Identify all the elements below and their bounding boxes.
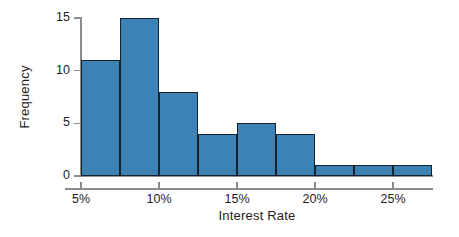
y-axis-title-label: Frequency [17, 65, 32, 128]
histogram-bar [393, 165, 432, 176]
histogram-bar [81, 60, 120, 176]
histogram-bar [354, 165, 393, 176]
histogram-bar [276, 134, 315, 176]
x-axis-tick-label: 5% [51, 192, 111, 206]
x-axis-tick-label: 15% [207, 192, 267, 206]
x-axis-title: Interest Rate [81, 208, 433, 223]
histogram-bar [237, 123, 276, 176]
plot-area [81, 18, 432, 176]
x-axis-tick-label: 20% [285, 192, 345, 206]
histogram-bar [315, 165, 354, 176]
y-axis-tick-label: 15 [40, 10, 70, 24]
x-axis-tick [236, 182, 238, 189]
histogram-bar [159, 92, 198, 176]
y-axis-tick [74, 175, 80, 177]
y-axis-tick [74, 70, 80, 72]
x-axis-tick-label: 10% [129, 192, 189, 206]
x-axis-tick-rule [65, 188, 433, 190]
histogram-bar [198, 134, 237, 176]
y-axis-tick [74, 17, 80, 19]
x-axis-tick [392, 182, 394, 189]
histogram-bar [120, 18, 159, 176]
y-axis-tick-label: 0 [40, 168, 70, 182]
y-axis-tick-label: 5 [40, 115, 70, 129]
x-axis-tick-label: 25% [363, 192, 423, 206]
x-axis-tick [80, 182, 82, 189]
y-axis-tick [74, 123, 80, 125]
y-axis-tick-label: 10 [40, 63, 70, 77]
x-axis-tick [158, 182, 160, 189]
histogram-figure: Frequency 051015 5%10%15%20%25% Interest… [0, 0, 459, 237]
x-axis-tick [314, 182, 316, 189]
y-axis-title: Frequency [14, 18, 34, 176]
